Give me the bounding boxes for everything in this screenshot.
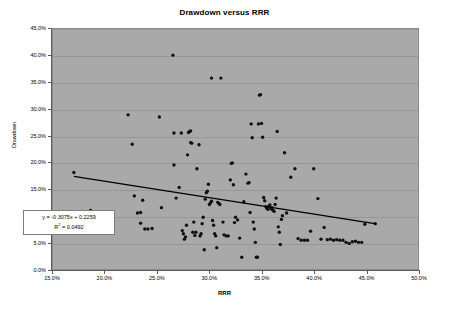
data-point [219,76,222,79]
data-point [280,218,283,221]
data-point [303,239,306,242]
data-point [276,130,279,133]
x-tick-label: 20.0% [82,275,126,281]
data-point [214,234,217,237]
data-point [347,242,350,245]
data-point [326,238,329,241]
data-point [248,211,251,214]
data-point [240,256,243,259]
data-point [139,211,142,214]
data-point [253,227,256,230]
data-point [296,237,299,240]
y-tick-label: 45.0% [2,25,46,31]
data-point [189,129,192,132]
data-point [319,237,322,240]
x-tick-label: 45.0% [345,275,389,281]
data-point [160,206,163,209]
data-point [285,211,288,214]
data-point [344,241,347,244]
x-tick-mark [419,271,420,274]
r-squared-text: R2 = 0.0492 [27,221,111,231]
data-point [172,131,175,134]
data-point [215,246,218,249]
data-point [329,237,332,240]
x-tick-label: 35.0% [240,275,284,281]
data-point [204,197,207,200]
data-point [218,203,221,206]
data-point [190,141,193,144]
data-point [257,122,260,125]
data-point [210,76,213,79]
trendline-equation-box: y = -0.3075x + 0.2259 R2 = 0.0492 [23,210,115,235]
data-point [252,220,255,223]
data-point [193,234,196,237]
trendline [74,176,376,224]
data-point [259,93,262,96]
data-point [191,231,194,234]
data-point [229,178,232,181]
data-point [231,161,234,164]
data-point [211,219,214,222]
data-point [171,53,174,56]
data-point [309,229,312,232]
data-point [247,181,250,184]
data-point [206,189,209,192]
data-point [316,197,319,200]
x-tick-mark [314,271,315,274]
data-point [244,172,247,175]
y-tick-label: 20.0% [2,159,46,165]
trendline-equation-text: y = -0.3075x + 0.2259 [27,213,111,221]
data-point [141,199,144,202]
data-point [273,203,276,206]
y-tick-label: 0.0% [2,267,46,273]
data-point [233,221,236,224]
data-points-group [72,53,377,259]
data-point [150,227,153,230]
data-point [146,227,149,230]
r-squared-value: = 0.0492 [61,224,84,230]
x-tick-mark [52,271,53,274]
data-point [131,143,134,146]
data-point [186,153,189,156]
data-point [338,239,341,242]
data-point [335,238,338,241]
data-point [249,122,252,125]
data-point [354,240,357,243]
data-point [236,218,239,221]
chart-title: Drawdown versus RRR [0,8,449,17]
data-point [126,113,129,116]
data-point [268,203,271,206]
data-point [203,248,206,251]
data-point [281,214,284,217]
data-point [177,186,180,189]
x-tick-mark [262,271,263,274]
data-point [256,256,259,259]
x-tick-mark [367,271,368,274]
data-point [238,236,241,239]
data-point [221,220,224,223]
y-tick-label: 40.0% [2,52,46,58]
data-point [201,216,204,219]
data-point [293,167,296,170]
data-point [136,211,139,214]
data-point [263,199,266,202]
data-point [266,208,269,211]
x-tick-mark [104,271,105,274]
y-axis-label: Drawdown [11,105,17,165]
data-point [322,226,325,229]
data-point [360,241,363,244]
data-point [274,196,277,199]
data-point [197,143,200,146]
data-point [172,163,175,166]
data-point [139,221,142,224]
data-point [262,196,265,199]
chart-container: Drawdown versus RRR 0.0%5.0%10.0%15.0%20… [0,0,449,309]
data-point [192,220,195,223]
data-point [250,136,253,139]
data-point [133,194,136,197]
data-point [261,136,264,139]
y-tick-label: 5.0% [2,240,46,246]
data-point [143,227,146,230]
x-tick-label: 40.0% [292,275,336,281]
data-point [194,231,197,234]
